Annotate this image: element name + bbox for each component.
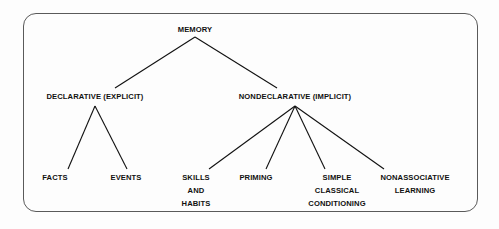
node-nondeclarative-label: NONDECLARATIVE (IMPLICIT) (239, 91, 351, 104)
node-simple-classical-conditioning-label-line-3: CONDITIONING (308, 198, 365, 211)
node-skills-and-habits: SKILLS AND HABITS (182, 172, 211, 210)
node-facts: FACTS (42, 172, 67, 185)
edge-memory-declarative (115, 37, 195, 88)
node-events: EVENTS (111, 172, 142, 185)
node-memory: MEMORY (178, 24, 213, 37)
node-facts-label: FACTS (42, 172, 67, 185)
edge-declarative-events (95, 106, 127, 169)
node-declarative: DECLARATIVE (EXPLICIT) (47, 91, 144, 104)
node-simple-classical-conditioning: SIMPLE CLASSICAL CONDITIONING (308, 172, 365, 210)
node-memory-label: MEMORY (178, 24, 213, 37)
diagram-canvas: MEMORY DECLARATIVE (EXPLICIT) NONDECLARA… (0, 0, 499, 229)
node-skills-and-habits-label-line-2: AND (182, 185, 211, 198)
edge-memory-nondeclarative (195, 37, 277, 88)
edge-nondeclarative-skills (209, 106, 295, 169)
node-nonassociative-learning-label-line-1: NONASSOCIATIVE (380, 172, 449, 185)
edge-declarative-facts (68, 106, 95, 169)
node-events-label: EVENTS (111, 172, 142, 185)
node-priming: PRIMING (239, 172, 272, 185)
edge-nondeclarative-priming (266, 106, 295, 169)
node-simple-classical-conditioning-label-line-1: SIMPLE (308, 172, 365, 185)
node-priming-label: PRIMING (239, 172, 272, 185)
node-skills-and-habits-label-line-1: SKILLS (182, 172, 211, 185)
node-simple-classical-conditioning-label-line-2: CLASSICAL (308, 185, 365, 198)
edge-nondeclarative-nonassociative (295, 106, 384, 169)
node-nonassociative-learning: NONASSOCIATIVE LEARNING (380, 172, 449, 198)
node-nonassociative-learning-label-line-2: LEARNING (380, 185, 449, 198)
node-declarative-label: DECLARATIVE (EXPLICIT) (47, 91, 144, 104)
edge-nondeclarative-simple (295, 106, 325, 169)
node-nondeclarative: NONDECLARATIVE (IMPLICIT) (239, 91, 351, 104)
node-skills-and-habits-label-line-3: HABITS (182, 198, 211, 211)
